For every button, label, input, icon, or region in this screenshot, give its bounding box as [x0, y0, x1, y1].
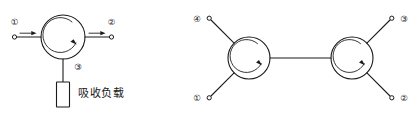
port-1-number-label: ①	[11, 17, 19, 27]
port-4-terminal-dot[interactable]	[207, 16, 211, 20]
port-3-number-label: ③	[74, 62, 82, 72]
circulation-arrowhead-icon	[70, 39, 76, 44]
port-1-terminal-dot[interactable]	[12, 35, 16, 39]
port-4-lead-line	[211, 20, 234, 43]
port-2b-number-label: ②	[400, 93, 408, 103]
port-1b-terminal-dot[interactable]	[207, 96, 211, 100]
figure-canvas: ① ② ③	[0, 0, 420, 115]
left-circulation-arrowhead-icon	[256, 60, 262, 65]
circulator-figure: ① ② ③	[0, 0, 420, 115]
port-2-terminal-dot[interactable]	[109, 35, 113, 39]
right-circulation-arc-icon	[333, 39, 364, 72]
port-2-flow-arrowhead-icon	[100, 31, 105, 35]
right-circulation-arrowhead-icon	[359, 60, 365, 65]
port-2b-terminal-dot[interactable]	[390, 96, 394, 100]
port-3b-terminal-dot[interactable]	[390, 16, 394, 20]
port-1b-lead-line	[211, 73, 234, 96]
diagram-dual-circulator: ④ ① ③ ②	[193, 14, 408, 104]
left-circulation-arc-icon	[230, 39, 261, 72]
port-2b-lead-line	[367, 73, 390, 96]
port-1-flow-arrowhead-icon	[31, 31, 36, 35]
absorbing-load-box[interactable]	[57, 82, 70, 107]
port-3b-lead-line	[367, 20, 390, 43]
port-4-number-label: ④	[193, 14, 201, 24]
absorbing-load-label: 吸收负载	[78, 88, 124, 99]
port-1b-number-label: ①	[193, 93, 201, 103]
circulation-arc-icon	[43, 18, 76, 53]
port-2-number-label: ②	[108, 17, 116, 27]
port-3b-number-label: ③	[400, 14, 408, 24]
